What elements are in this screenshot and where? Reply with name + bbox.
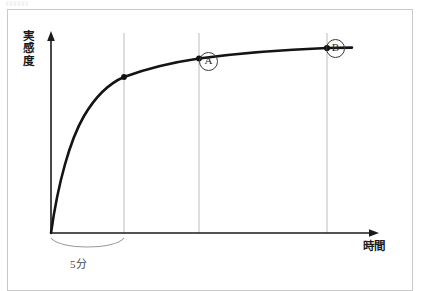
y-axis-arrow-icon — [47, 31, 55, 41]
data-point-first-gridline — [121, 74, 127, 80]
brace-5min — [51, 238, 124, 247]
y-axis-label: 実感度 — [22, 30, 36, 67]
x-axis-label: 時間 — [363, 240, 385, 252]
gridlines — [124, 33, 327, 233]
point-label-b: B — [326, 39, 345, 58]
curve-series — [51, 48, 352, 233]
x-axis-arrow-icon — [369, 229, 379, 237]
brace-label-5min: 5分 — [70, 255, 87, 271]
point-label-a: A — [199, 52, 218, 71]
